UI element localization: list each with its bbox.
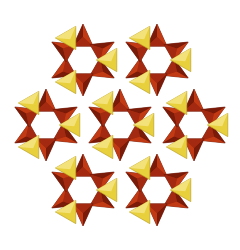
ring-bottom-left [52, 154, 117, 226]
ring-mid-right [163, 89, 228, 161]
ring-top-left [52, 24, 117, 96]
ring-mid-center [89, 89, 154, 161]
crystal-structure-diagram [0, 0, 240, 250]
ring-top-right [126, 24, 191, 96]
ring-bottom-right [126, 154, 191, 226]
ring-mid-left [15, 89, 80, 161]
ring-lattice-canvas [0, 0, 240, 250]
